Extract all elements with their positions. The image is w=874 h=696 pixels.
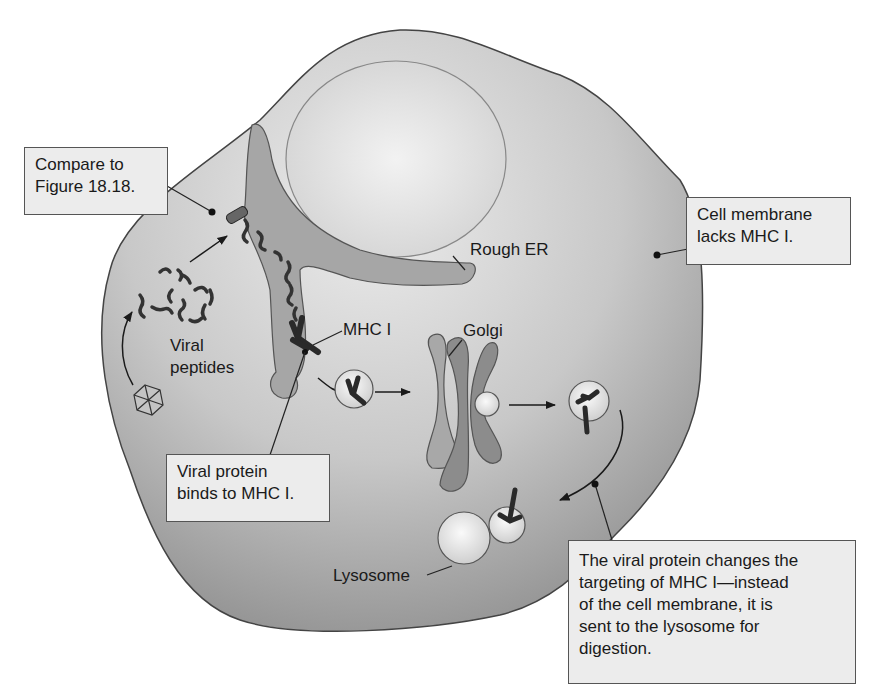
callout-targeting-line3: of the cell membrane, it is	[579, 594, 845, 616]
callout-compare-line1: Compare to	[35, 154, 157, 176]
callout-targeting-line5: digestion.	[579, 638, 845, 660]
callout-binds-line2: binds to MHC I.	[177, 483, 319, 505]
callout-targeting-line4: sent to the lysosome for	[579, 616, 845, 638]
callout-targeting: The viral protein changes the targeting …	[568, 540, 856, 684]
label-rough-er: Rough ER	[470, 240, 548, 260]
transport-vesicle-1	[335, 370, 373, 408]
label-lysosome: Lysosome	[333, 566, 410, 586]
callout-binds: Viral protein binds to MHC I.	[166, 454, 330, 522]
callout-membrane-line2: lacks MHC I.	[697, 226, 840, 248]
callout-targeting-line2: targeting of MHC I—instead	[579, 572, 845, 594]
label-viral-peptides-line1: Viral	[170, 335, 234, 357]
callout-compare: Compare to Figure 18.18.	[24, 147, 168, 215]
label-viral-peptides: Viral peptides	[170, 335, 234, 379]
callout-compare-line2: Figure 18.18.	[35, 176, 157, 198]
callout-binds-line1: Viral protein	[177, 461, 319, 483]
callout-membrane: Cell membrane lacks MHC I.	[686, 197, 851, 265]
callout-membrane-line1: Cell membrane	[697, 204, 840, 226]
label-viral-peptides-line2: peptides	[170, 357, 234, 379]
callout-targeting-line1: The viral protein changes the	[579, 550, 845, 572]
label-golgi: Golgi	[463, 321, 503, 341]
label-mhc-i: MHC I	[343, 320, 391, 340]
